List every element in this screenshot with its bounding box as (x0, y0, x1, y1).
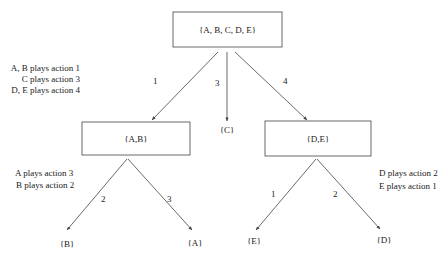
de-annotation: D plays action 2 E plays action 1 (379, 168, 438, 191)
edge-label: 3 (167, 194, 172, 204)
edge-label: 4 (283, 76, 288, 86)
edge-de-e (256, 159, 316, 230)
node-de: {D,E} (265, 121, 371, 156)
edge-label: 1 (271, 189, 276, 199)
edge-ab-b (67, 159, 127, 230)
root-node-label: {A, B, C, D, E} (199, 25, 256, 35)
edge-label: 3 (215, 78, 220, 88)
partition-tree-diagram: {A, B, C, D, E} A, B plays action 1 C pl… (0, 0, 447, 262)
annotation-line: B plays action 2 (16, 180, 74, 190)
root-node: {A, B, C, D, E} (173, 12, 282, 47)
node-b-label: {B} (60, 239, 75, 249)
edge-root-ab (152, 52, 218, 120)
edge-de-d (317, 159, 380, 229)
annotation-line: A plays action 3 (15, 168, 74, 178)
root-annotation: A, B plays action 1 C plays action 3 D, … (11, 63, 81, 95)
edge-root-de (235, 52, 307, 120)
node-c-label: {C} (220, 125, 235, 135)
edge-label: 2 (101, 194, 106, 204)
annotation-line: A, B plays action 1 (11, 63, 80, 73)
annotation-line: D plays action 2 (379, 168, 438, 178)
edge-label: 2 (333, 189, 338, 199)
edge-label: 1 (153, 76, 158, 86)
annotation-line: E plays action 1 (379, 181, 437, 191)
annotation-line: D, E plays action 4 (11, 85, 80, 95)
node-e-label: {E} (247, 236, 261, 246)
node-de-label: {D,E} (307, 134, 330, 144)
edge-ab-a (128, 159, 192, 230)
node-a-label: {A} (187, 238, 202, 248)
annotation-line: C plays action 3 (22, 74, 81, 84)
node-ab-label: {A,B} (124, 134, 147, 144)
node-ab: {A,B} (82, 122, 190, 155)
ab-annotation: A plays action 3 B plays action 2 (15, 168, 74, 190)
node-d-label: {D} (376, 235, 391, 245)
